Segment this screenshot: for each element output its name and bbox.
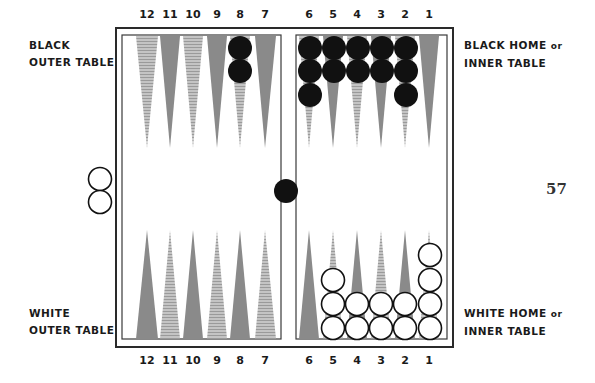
black-checker[interactable] (346, 59, 370, 83)
white-checker-off[interactable] (89, 168, 112, 191)
black-checker[interactable] (394, 59, 418, 83)
white-checker[interactable] (394, 317, 417, 340)
white-checker[interactable] (394, 293, 417, 316)
black-checker[interactable] (228, 59, 252, 83)
black-checker-on-bar[interactable] (274, 179, 298, 203)
black-checker[interactable] (370, 36, 394, 60)
black-checker[interactable] (298, 83, 322, 107)
white-checker[interactable] (419, 269, 442, 292)
black-checker[interactable] (394, 36, 418, 60)
white-checker[interactable] (370, 293, 393, 316)
white-checker[interactable] (419, 317, 442, 340)
white-checker-off[interactable] (89, 191, 112, 214)
black-checker[interactable] (298, 59, 322, 83)
white-checker[interactable] (419, 244, 442, 267)
white-checker[interactable] (346, 293, 369, 316)
black-checker[interactable] (322, 36, 346, 60)
black-checker[interactable] (370, 59, 394, 83)
white-checker[interactable] (322, 269, 345, 292)
black-checker[interactable] (298, 36, 322, 60)
black-checker[interactable] (346, 36, 370, 60)
white-checker[interactable] (346, 317, 369, 340)
white-checker[interactable] (322, 317, 345, 340)
black-checker[interactable] (394, 83, 418, 107)
black-checker[interactable] (322, 59, 346, 83)
white-checker[interactable] (370, 317, 393, 340)
backgammon-board (0, 0, 595, 383)
white-checker[interactable] (419, 293, 442, 316)
black-checker[interactable] (228, 36, 252, 60)
white-checker[interactable] (322, 293, 345, 316)
